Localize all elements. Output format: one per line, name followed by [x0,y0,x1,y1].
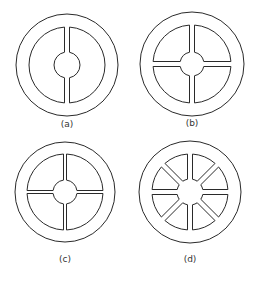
spoke [190,76,195,103]
spoke [27,191,53,194]
hub-outline [177,179,203,205]
hub-outline [180,52,203,75]
panel-label-a: (a) [61,119,74,129]
inner-rim-arc [152,154,228,230]
outer-rim-circle [139,141,241,243]
spoke [64,204,67,230]
wheel-diagram-figure: (a) (b) (c) (d) [0,0,255,281]
outer-rim-circle [140,12,244,116]
inner-rim-arc [153,25,231,103]
spoke [65,78,70,103]
spoke [65,27,70,52]
panel-a: (a) [16,14,118,129]
outer-rim-circle [15,142,115,242]
spoke [204,62,231,67]
spoke [77,191,103,194]
panel-b: (b) [140,12,244,128]
spoke [188,205,193,230]
spoke [190,25,195,52]
hub-outline [54,52,80,78]
panel-label-c: (c) [59,254,71,264]
panel-label-b: (b) [186,118,199,128]
spoke [153,62,180,67]
spoke [161,199,182,220]
panel-d: (d) [139,141,241,264]
inner-rim-arc [27,154,103,230]
hub-outline [53,180,77,204]
panel-c: (c) [15,142,115,264]
spoke [64,154,67,180]
inner-rim-arc [29,27,105,103]
spoke [197,199,218,220]
panel-label-d: (d) [184,254,197,264]
spoke [161,163,182,184]
spoke [203,190,228,195]
outer-rim-circle [16,14,118,116]
spoke [152,190,177,195]
spoke [188,154,193,179]
spoke [197,163,218,184]
